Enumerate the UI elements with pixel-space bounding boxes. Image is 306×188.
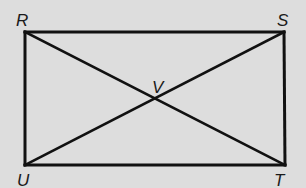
diagram-svg: R S V U T: [0, 0, 306, 188]
vertex-label-r: R: [16, 11, 28, 30]
vertex-label-s: S: [277, 11, 289, 30]
vertex-label-t: T: [274, 171, 286, 188]
vertex-label-u: U: [17, 171, 30, 188]
rectangle-diagram: R S V U T: [0, 0, 306, 188]
intersection-label-v: V: [152, 78, 165, 97]
side-st: [284, 32, 285, 165]
